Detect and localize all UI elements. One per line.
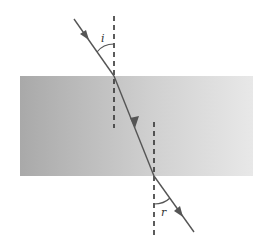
arrow-icon-incident xyxy=(80,30,89,40)
label-incidence-angle: i xyxy=(101,32,105,45)
incident-ray xyxy=(74,19,114,76)
refraction-diagram: i r xyxy=(0,0,267,250)
angle-arc-refraction xyxy=(154,198,170,204)
emergent-ray xyxy=(154,176,194,232)
label-refraction-angle: r xyxy=(161,206,167,219)
arrow-icon-emergent xyxy=(174,206,183,217)
angle-arc-incidence xyxy=(97,44,114,52)
glass-slab xyxy=(20,76,253,176)
